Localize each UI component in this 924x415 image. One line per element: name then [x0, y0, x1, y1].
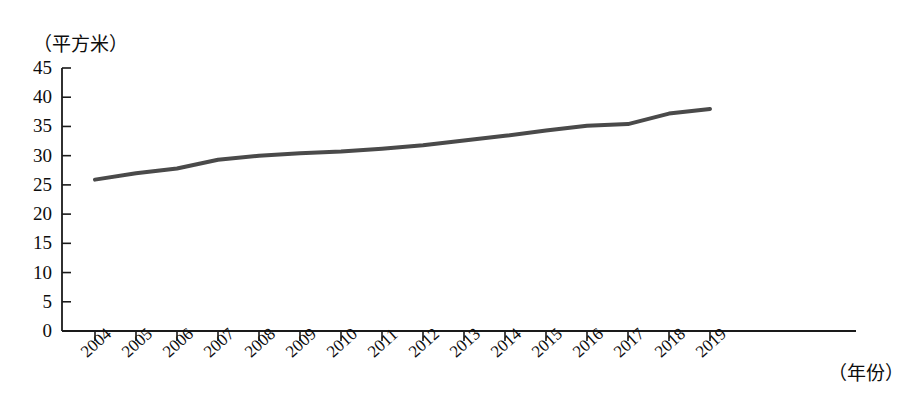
line-chart-plot: 454035302520151050 200420052006200720082… [0, 0, 924, 415]
data-series-line [95, 109, 710, 180]
y-tick-label: 20 [18, 203, 52, 225]
y-tick-label: 15 [18, 232, 52, 254]
y-tick-label: 30 [18, 145, 52, 167]
y-tick-label: 25 [18, 174, 52, 196]
chart-page: （平方米） （年份） 454035302520151050 2004200520… [0, 0, 924, 415]
axis-ticks [62, 68, 710, 341]
y-tick-label: 35 [18, 115, 52, 137]
y-tick-label: 40 [18, 86, 52, 108]
y-tick-label: 0 [18, 320, 52, 342]
y-tick-label: 10 [18, 262, 52, 284]
y-tick-label: 45 [18, 57, 52, 79]
axis-lines [62, 68, 856, 331]
y-tick-label: 5 [18, 291, 52, 313]
